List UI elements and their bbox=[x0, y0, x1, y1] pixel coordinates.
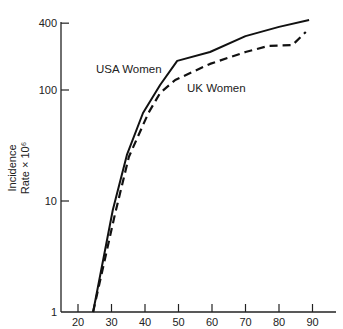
y-axis-title-line2: Rate × 10⁶ bbox=[19, 142, 31, 195]
x-tick-label: 20 bbox=[72, 316, 84, 328]
usa-women-label: USA Women bbox=[96, 63, 162, 75]
y-tick-label: 10 bbox=[45, 195, 57, 207]
y-tick-label: 400 bbox=[39, 17, 57, 29]
x-tick-label: 80 bbox=[273, 316, 285, 328]
x-tick-label: 70 bbox=[239, 316, 251, 328]
x-ticks: 2030405060708090 bbox=[72, 304, 319, 328]
x-tick-label: 30 bbox=[105, 316, 117, 328]
y-axis-title: Incidence Rate × 10⁶ bbox=[6, 142, 31, 195]
incidence-rate-chart: 110100400 2030405060708090 Incidence Rat… bbox=[0, 0, 343, 329]
y-tick-label: 100 bbox=[39, 84, 57, 96]
y-tick-label: 1 bbox=[51, 306, 57, 318]
x-tick-label: 40 bbox=[139, 316, 151, 328]
x-tick-label: 60 bbox=[206, 316, 218, 328]
y-ticks: 110100400 bbox=[39, 17, 69, 318]
x-tick-label: 50 bbox=[172, 316, 184, 328]
x-tick-label: 90 bbox=[306, 316, 318, 328]
y-axis-title-line1: Incidence bbox=[6, 144, 18, 191]
uk-women-label: UK Women bbox=[187, 82, 246, 94]
